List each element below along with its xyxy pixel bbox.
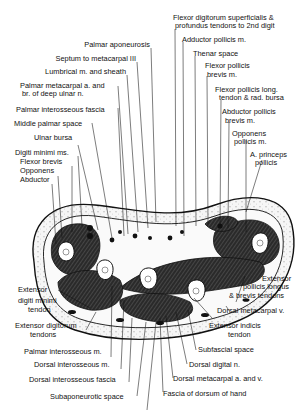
label-apb-2: brevis m. (225, 117, 255, 125)
label-ed-1: Extensor digitorum (15, 322, 77, 330)
label-epl-3: & brevis tendons (229, 292, 284, 300)
label-digiti-minimi: Digiti minimi ms. (15, 149, 69, 157)
label-dorsal-interosseous-m: Dorsal interosseous m. (34, 361, 110, 369)
label-ulnar-bursa: Ulnar bursa (34, 134, 72, 142)
label-apr-2: pollicis (255, 159, 277, 167)
label-ed-2: tendons (30, 331, 56, 339)
label-fascia-dorsum: Fascia of dorsum of hand (163, 390, 246, 398)
label-palmar-aponeurosis: Palmar aponeurosis (44, 41, 150, 49)
label-edm-1: Extensor (18, 286, 47, 294)
label-palmar-interosseous-m: Palmar interosseous m. (24, 348, 102, 356)
label-thenar-space: Thenar space (193, 50, 238, 58)
label-flexor-brevis: Flexor brevis (20, 158, 62, 166)
label-adductor-pollicis: Adductor pollicis m. (182, 36, 246, 44)
label-apb-1: Abductor pollicis (222, 108, 276, 116)
label-middle-palmar-space: Middle palmar space (14, 120, 82, 128)
label-abductor: Abductor (20, 176, 50, 184)
label-opponens: Opponens (20, 167, 54, 175)
label-fds-2: profundus tendons to 2nd digit (175, 22, 274, 30)
label-op-2: pollicis m. (234, 138, 266, 146)
label-subaponeurotic-space: Subaponeurotic space (50, 393, 124, 401)
label-lumbrical: Lumbrical m. and sheath (20, 68, 126, 76)
label-fpb-2: brevis m. (207, 71, 237, 79)
label-edm-3: tendon (28, 306, 51, 314)
label-subfascial-space: Subfascial space (198, 346, 254, 354)
label-dorsal-metacarpal-v: Dorsal metacarpal v. (217, 307, 284, 315)
label-br-deep-ulnar-n: br. of deep ulnar n. (22, 90, 84, 98)
label-epl-2: pollicis longus (243, 283, 289, 291)
label-edm-2: digiti minimi (18, 297, 57, 305)
label-dorsal-metacarpal-av: Dorsal metacarpal a. and v. (173, 375, 263, 383)
label-eit-1: Extensor indicis (209, 322, 261, 330)
label-eit-2: tendon (228, 331, 251, 339)
label-palmar-interosseous-fascia: Palmar interosseous fascia (16, 106, 105, 114)
label-fpb-1: Flexor pollicis (205, 62, 250, 70)
label-dorsal-interosseous-fascia: Dorsal interosseous fascia (29, 376, 116, 384)
label-septum-metacarpal: Septum to metacarpal III (28, 55, 136, 63)
label-dorsal-digital-n: Dorsal digital n. (189, 361, 240, 369)
label-fpl-2: tendon & rad. bursa (219, 94, 284, 102)
